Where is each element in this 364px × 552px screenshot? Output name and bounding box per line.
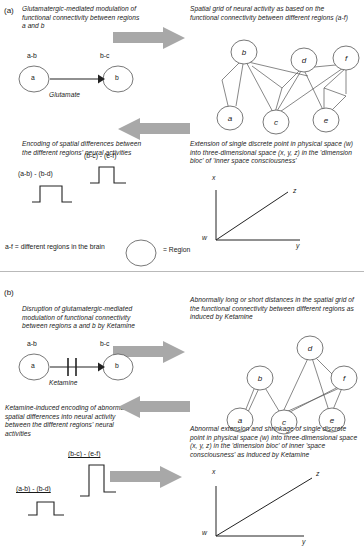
panel-a-pulse-2 <box>90 163 134 187</box>
svg-text:a: a <box>238 416 243 425</box>
panel-b-axis-x: x <box>212 468 215 477</box>
panel-b-axis-w: w <box>202 529 207 538</box>
panel-a-network-graph: a b c d e f <box>212 36 362 136</box>
svg-text:b: b <box>242 48 247 57</box>
panel-a-caption-mid-right: Extension of single discrete point in ph… <box>190 140 355 166</box>
panel-a-axis-x: x <box>212 174 215 183</box>
svg-text:e: e <box>324 116 329 125</box>
panel-a-label: (a) <box>4 6 14 15</box>
arrow-right-b-bottom <box>110 466 182 488</box>
panel-a-target-label: b-c <box>100 52 109 61</box>
panel-b-caption-top-left: Disruption of glutamatergic-mediated mod… <box>22 305 150 331</box>
panel-a-axis-y: y <box>296 242 299 251</box>
panel-divider <box>0 271 364 272</box>
panel-b-node-a: a <box>31 362 35 369</box>
panel-b-source-label: a-b <box>27 340 37 349</box>
panel-b-pulse-2-label: (b-c) - (e-f) <box>68 450 100 459</box>
panel-a-node-b: b <box>115 74 119 81</box>
figure-root: (a) Glutamatergic-mediated modulation of… <box>0 0 364 552</box>
legend-regions-note: a-f = different regions in the brain <box>5 243 120 252</box>
panel-a-axis-w: w <box>202 234 207 243</box>
panel-a-caption-top-right: Spatial grid of neural activity as based… <box>190 5 350 22</box>
panel-b-network-graph: a b c d e f <box>212 328 362 438</box>
legend-region-circle <box>124 238 158 268</box>
panel-b-axis-z: z <box>316 470 319 479</box>
svg-text:b: b <box>258 374 263 383</box>
panel-b-caption-top-right: Abnormally long or short distances in th… <box>190 296 355 322</box>
panel-b-target-label: b-c <box>100 340 109 349</box>
svg-text:c: c <box>274 118 278 127</box>
panel-b-mediator-label: Ketamine <box>49 379 77 388</box>
panel-a-pulse-2-label: (b-c) - (e-f) <box>84 152 116 161</box>
panel-b-node-b: b <box>115 362 119 369</box>
panel-b-pulse-1-label: (a-b) - (b-d) <box>16 485 51 494</box>
panel-a-mediator-label: Glutamate <box>49 91 80 100</box>
svg-text:d: d <box>302 56 307 65</box>
legend-region-meaning: = Region <box>163 246 190 255</box>
panel-b-label: (b) <box>4 288 14 297</box>
arrow-left-b-mid <box>118 396 190 418</box>
arrow-right-a-top <box>113 27 185 49</box>
panel-b-pulse-2-text: (b-c) - (e-f) <box>68 450 100 457</box>
panel-a-node-a: a <box>31 74 35 81</box>
panel-a-pulse-1 <box>32 182 78 206</box>
svg-text:a: a <box>228 114 233 123</box>
panel-b-caption-mid-right: Abnormal extension and shrinkage of sing… <box>190 425 358 459</box>
panel-a-pulse-1-label: (a-b) - (b-d) <box>18 170 53 179</box>
panel-a-axis-z: z <box>293 187 296 196</box>
panel-b-pulse-1 <box>28 497 70 519</box>
svg-text:e: e <box>330 416 335 425</box>
panel-b-axis-y: y <box>302 538 305 547</box>
arrow-left-a-mid <box>118 118 190 140</box>
panel-b-space-axes <box>200 478 320 544</box>
panel-a-source-label: a-b <box>27 52 37 61</box>
panel-b-pulse-1-text: (a-b) - (b-d) <box>16 485 51 492</box>
svg-text:d: d <box>308 344 313 353</box>
